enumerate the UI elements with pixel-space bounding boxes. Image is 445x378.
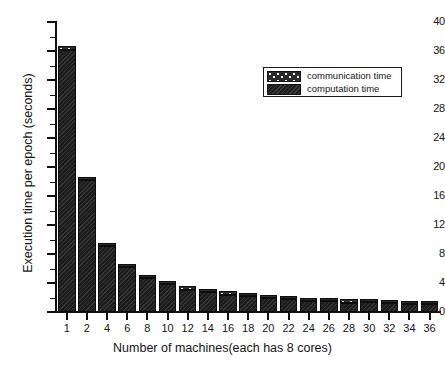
y-tick-mark: [47, 224, 55, 226]
bar-segment-computation: [139, 278, 157, 312]
chart-legend: communication time computation time: [263, 67, 402, 97]
bar-segment-computation: [239, 296, 257, 312]
bar-segment-computation: [360, 302, 378, 312]
y-tick-mark: [47, 21, 55, 23]
bar-2: [78, 179, 96, 312]
x-tick-mark: [368, 313, 370, 320]
legend-label-communication-time: communication time: [307, 71, 391, 81]
x-tick-mark: [288, 313, 290, 320]
y-tick-minor: [50, 95, 55, 96]
bar-segment-computation: [421, 304, 439, 312]
y-tick-mark: [47, 195, 55, 197]
bar-segment-communication: [239, 293, 257, 296]
bar-segment-computation: [159, 284, 177, 312]
y-tick-mark: [47, 166, 55, 168]
bar-36: [421, 301, 439, 312]
x-tick-mark: [247, 313, 249, 320]
bar-segment-communication: [401, 301, 419, 304]
bar-segment-computation: [260, 298, 278, 312]
bar-segment-communication: [139, 275, 157, 278]
y-tick-minor: [50, 298, 55, 299]
y-axis-title: Execution time per epoch (seconds): [21, 48, 35, 298]
bar-segment-communication: [280, 296, 298, 299]
y-tick-minor: [50, 153, 55, 154]
bar-22: [280, 297, 298, 312]
x-tick-mark: [348, 313, 350, 320]
legend-label-computation-time: computation time: [307, 84, 379, 94]
x-tick-mark: [267, 313, 269, 320]
bar-segment-communication: [320, 298, 338, 301]
bar-8: [139, 276, 157, 312]
bar-segment-computation: [98, 246, 116, 312]
bar-segment-computation: [401, 304, 419, 312]
bar-segment-communication: [78, 177, 96, 180]
bar-30: [360, 299, 378, 312]
x-tick-mark: [207, 313, 209, 320]
y-tick-mark: [47, 50, 55, 52]
x-tick-mark: [146, 313, 148, 320]
bar-segment-communication: [179, 286, 197, 289]
bar-24: [300, 299, 318, 312]
x-tick-mark: [126, 313, 128, 320]
x-tick-mark: [187, 313, 189, 320]
bar-26: [320, 299, 338, 312]
bar-segment-communication: [340, 299, 358, 302]
bar-segment-communication: [219, 291, 237, 294]
plot-area: [56, 22, 441, 312]
y-tick-mark: [47, 108, 55, 110]
x-tick-label: 36: [417, 322, 443, 334]
bar-segment-communication: [300, 298, 318, 301]
bar-segment-communication: [260, 295, 278, 298]
x-tick-mark: [167, 313, 169, 320]
bar-segment-communication: [118, 264, 136, 267]
x-tick-mark: [106, 313, 108, 320]
x-tick-mark: [388, 313, 390, 320]
legend-swatch-computation-icon: [267, 84, 301, 95]
bar-32: [381, 301, 399, 312]
bar-segment-communication: [98, 243, 116, 246]
bar-segment-computation: [118, 267, 136, 312]
bar-segment-communication: [199, 289, 217, 292]
x-axis-title: Number of machines(each has 8 cores): [0, 341, 445, 355]
bar-segment-communication: [381, 300, 399, 303]
bar-segment-computation: [179, 290, 197, 312]
x-tick-mark: [227, 313, 229, 320]
bar-segment-computation: [381, 303, 399, 312]
bar-segment-communication: [421, 301, 439, 304]
bar-28: [340, 300, 358, 312]
y-tick-minor: [50, 124, 55, 125]
bar-chart-figure: 0481216202428323640 12468101214161820222…: [0, 0, 445, 378]
y-tick-mark: [47, 79, 55, 81]
x-tick-mark: [308, 313, 310, 320]
bar-14: [199, 291, 217, 312]
bar-4: [98, 245, 116, 312]
y-tick-minor: [50, 269, 55, 270]
x-tick-mark: [408, 313, 410, 320]
bar-segment-communication: [58, 46, 76, 49]
legend-swatch-communication-icon: [267, 71, 301, 82]
bar-segment-computation: [219, 295, 237, 312]
x-tick-mark: [86, 313, 88, 320]
y-tick-minor: [50, 182, 55, 183]
bar-segment-computation: [58, 50, 76, 312]
bar-segment-computation: [78, 180, 96, 312]
bar-segment-computation: [300, 301, 318, 312]
y-tick-minor: [50, 211, 55, 212]
bar-segment-computation: [340, 303, 358, 312]
bar-segment-communication: [159, 281, 177, 284]
bar-18: [239, 294, 257, 312]
bar-segment-computation: [199, 292, 217, 312]
y-tick-minor: [50, 240, 55, 241]
bar-segment-computation: [320, 301, 338, 312]
bar-segment-communication: [360, 299, 378, 302]
y-tick-minor: [50, 66, 55, 67]
y-tick-mark: [47, 311, 55, 313]
y-tick-mark: [47, 137, 55, 139]
bar-segment-computation: [280, 299, 298, 312]
bar-34: [401, 302, 419, 313]
legend-item-communication-time: communication time: [267, 70, 391, 82]
bar-12: [179, 288, 197, 312]
bar-6: [118, 266, 136, 312]
x-tick-mark: [328, 313, 330, 320]
bar-1: [58, 49, 76, 312]
